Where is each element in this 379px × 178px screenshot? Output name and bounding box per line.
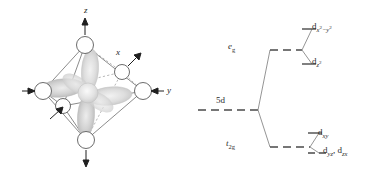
d-orbital-lobes [39, 48, 133, 137]
ligand-back [115, 65, 130, 80]
octahedron-panel: z y x [0, 0, 190, 178]
ligand-bottom [78, 132, 95, 149]
ligand-left [35, 83, 52, 100]
level-label-t2g: t2g [226, 139, 235, 148]
eg-branch-lines [302, 29, 312, 64]
correlation-lines [258, 50, 270, 147]
orbital-label-dxy-subscript: xy [323, 132, 329, 139]
orbital-label-dz2-supz: 2 [319, 60, 322, 65]
octahedron-drawing [0, 0, 190, 178]
energy-level-diagram-panel: 5d eg t2g dx2−y2 dz2 dxy dyz, dzx [190, 0, 379, 178]
ligand-right [135, 83, 152, 100]
axis-label-x: x [116, 48, 120, 57]
level-label-eg-subscript: g [232, 46, 235, 53]
orbital-label-dx2-y2: dx2−y2 [312, 22, 332, 31]
orbital-label-dzx-subscript: zx [342, 150, 347, 157]
orbital-label-dxy: dxy [318, 128, 328, 137]
ligand-top [77, 37, 94, 54]
orbital-label-dz2: dz2 [312, 57, 322, 66]
level-label-5d: 5d [216, 96, 225, 105]
orbital-label-dyz-dzx: dyz, dzx [323, 146, 347, 155]
axis-label-y: y [167, 86, 171, 95]
crystal-field-splitting-figure: z y x [0, 0, 379, 178]
level-label-eg: eg [228, 42, 235, 51]
orbital-label-dyz-dzx-separator: , d [333, 145, 342, 155]
axis-label-z: z [84, 6, 88, 15]
level-label-t2g-subscript: 2g [229, 143, 236, 150]
energy-diagram-drawing [190, 0, 379, 178]
orbital-label-dx2-y2-supy: 2 [329, 25, 332, 30]
